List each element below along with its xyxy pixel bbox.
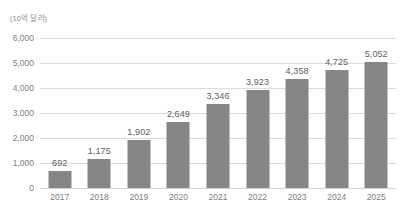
bar-slot: 3,346 <box>198 38 238 188</box>
y-axis-tick-label: 6,000 <box>0 33 34 43</box>
bar-slot: 4,725 <box>317 38 357 188</box>
bar-value-label: 3,923 <box>246 77 269 87</box>
bar[interactable] <box>246 90 269 188</box>
bar[interactable] <box>286 79 309 188</box>
bar-value-label: 4,725 <box>325 57 348 67</box>
bar[interactable] <box>325 70 348 188</box>
y-axis-tick-label: 3,000 <box>0 108 34 118</box>
bar-slot: 1,175 <box>80 38 120 188</box>
bar-value-label: 4,358 <box>286 66 309 76</box>
axis-baseline <box>40 188 396 189</box>
x-axis-tick-label: 2025 <box>367 192 386 202</box>
x-axis-labels: 201720182019202020212022202320242025 <box>40 192 396 210</box>
bar-chart: (10억 달러) 01,0002,0003,0004,0005,0006,000… <box>0 0 410 216</box>
x-axis-tick-label: 2021 <box>209 192 228 202</box>
bar-value-label: 2,649 <box>167 109 190 119</box>
y-axis-tick-label: 1,000 <box>0 158 34 168</box>
bar-value-label: 692 <box>52 158 67 168</box>
x-axis-tick-label: 2024 <box>327 192 346 202</box>
bar[interactable] <box>127 140 150 188</box>
bar-slot: 4,358 <box>277 38 317 188</box>
bar-value-label: 5,052 <box>365 49 388 59</box>
y-axis-tick-label: 0 <box>0 183 34 193</box>
x-axis-tick-label: 2020 <box>169 192 188 202</box>
x-axis-tick-label: 2019 <box>129 192 148 202</box>
bar-value-label: 1,902 <box>127 127 150 137</box>
bars-layer: 6921,1751,9022,6493,3463,9234,3584,7255,… <box>40 38 396 188</box>
x-axis-tick-label: 2023 <box>288 192 307 202</box>
bar-slot: 692 <box>40 38 80 188</box>
y-axis-tick-label: 5,000 <box>0 58 34 68</box>
bar[interactable] <box>48 171 71 188</box>
x-axis-tick-label: 2018 <box>90 192 109 202</box>
bar-value-label: 3,346 <box>206 91 229 101</box>
bar-slot: 5,052 <box>356 38 396 188</box>
y-axis-tick-label: 2,000 <box>0 133 34 143</box>
x-axis-tick-label: 2017 <box>50 192 69 202</box>
bar-slot: 2,649 <box>159 38 199 188</box>
x-axis-tick-label: 2022 <box>248 192 267 202</box>
bar-slot: 3,923 <box>238 38 278 188</box>
y-axis-labels: 01,0002,0003,0004,0005,0006,000 <box>0 0 34 216</box>
bar[interactable] <box>167 122 190 188</box>
bar-value-label: 1,175 <box>88 146 111 156</box>
bar[interactable] <box>365 62 388 188</box>
bar[interactable] <box>88 159 111 188</box>
bar-slot: 1,902 <box>119 38 159 188</box>
bar[interactable] <box>206 104 229 188</box>
y-axis-tick-label: 4,000 <box>0 83 34 93</box>
